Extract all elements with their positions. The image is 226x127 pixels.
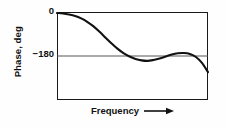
y-tick-label-0: 0 [30, 6, 54, 16]
y-tick-label-minus180: −180 [22, 49, 54, 59]
x-axis-label-group: Frequency [57, 106, 208, 116]
x-axis-label: Frequency [91, 106, 139, 116]
plot-area [57, 12, 208, 100]
arrow-right-icon [144, 107, 174, 115]
phase-response-curve [57, 13, 208, 72]
phase-plot-figure: Phase, deg 0 −180 Frequency [0, 0, 226, 127]
